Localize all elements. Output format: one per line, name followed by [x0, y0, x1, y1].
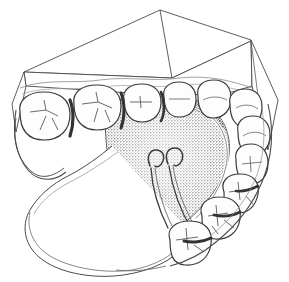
tooth-left-second-molar: [20, 92, 70, 140]
tooth-left-second-premolar: [124, 84, 161, 122]
tooth-left-first-molar: [74, 85, 121, 130]
tooth-crown-outline: [164, 82, 196, 117]
tooth-crown-outline: [20, 92, 70, 140]
tooth-crown-outline: [74, 85, 121, 130]
tooth-left-canine: [198, 80, 231, 118]
tooth-crown-outline: [198, 80, 231, 118]
tooth-crown-outline: [124, 84, 161, 122]
dental-arch-figure: Mandibular dental arch cast, occlusal vi…: [0, 0, 289, 282]
tooth-left-first-premolar: [164, 82, 196, 117]
dental-arch-illustration: [0, 0, 289, 282]
